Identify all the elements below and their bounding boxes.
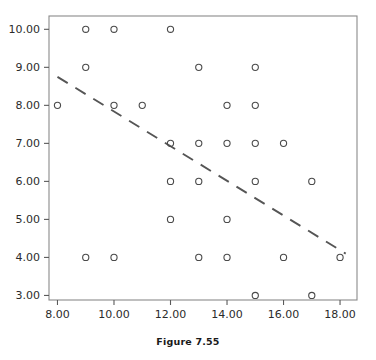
y-tick-label: 5.00	[16, 213, 41, 226]
y-tick-label: 6.00	[16, 175, 41, 188]
y-tick-label: 4.00	[16, 251, 41, 264]
y-tick-label: 10.00	[9, 23, 41, 36]
y-tick-label: 9.00	[16, 61, 41, 74]
y-axis-tick-labels: 3.004.005.006.007.008.009.0010.00	[9, 23, 41, 302]
y-tick-label: 8.00	[16, 99, 41, 112]
plot-frame	[49, 16, 357, 300]
x-tick-label: 8.00	[45, 308, 70, 321]
y-axis-ticks	[44, 29, 49, 295]
x-tick-label: 10.00	[98, 308, 130, 321]
x-tick-label: 12.00	[155, 308, 187, 321]
figure-caption: Figure 7.55	[0, 336, 376, 347]
x-axis-tick-labels: 8.0010.0012.0014.0016.0018.00	[45, 308, 356, 321]
x-tick-label: 16.00	[268, 308, 300, 321]
y-tick-label: 3.00	[16, 289, 41, 302]
scatter-plot: 3.004.005.006.007.008.009.0010.00 8.0010…	[0, 0, 376, 360]
figure-container: 3.004.005.006.007.008.009.0010.00 8.0010…	[0, 0, 376, 360]
x-tick-label: 18.00	[324, 308, 356, 321]
x-axis-ticks	[57, 300, 340, 305]
x-tick-label: 14.00	[211, 308, 243, 321]
y-tick-label: 7.00	[16, 137, 41, 150]
